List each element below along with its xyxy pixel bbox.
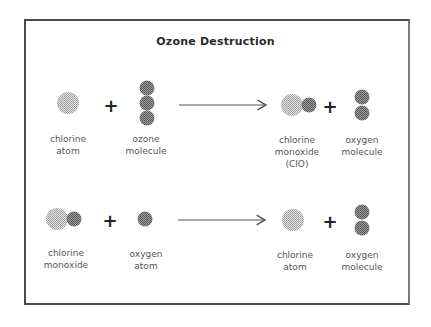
plus-sign: + xyxy=(103,98,119,114)
label-chlorine-atom: chlorine atom xyxy=(33,133,103,157)
chlorine-monoxide-icon xyxy=(281,94,317,116)
label-oxygen-molecule: oxygen molecule xyxy=(327,134,397,158)
chlorine-atom-icon xyxy=(57,92,79,114)
label-chlorine-monoxide-clo: chlorine monoxide (ClO) xyxy=(262,134,332,170)
oxygen-atom-icon xyxy=(138,212,153,227)
reaction-artwork xyxy=(0,0,431,327)
plus-sign: + xyxy=(102,213,118,229)
chlorine-atom-icon xyxy=(282,209,304,231)
oxygen-molecule-icon xyxy=(355,90,370,121)
label-chlorine-monoxide: chlorine monoxide xyxy=(31,247,101,271)
reaction-2 xyxy=(46,205,370,236)
label-oxygen-molecule: oxygen molecule xyxy=(327,249,397,273)
label-oxygen-atom: oxygen atom xyxy=(111,248,181,272)
ozone-molecule-icon xyxy=(140,81,155,126)
oxygen-molecule-icon xyxy=(355,205,370,236)
plus-sign: + xyxy=(322,99,338,115)
plus-sign: + xyxy=(322,214,338,230)
label-chlorine-atom: chlorine atom xyxy=(260,249,330,273)
chlorine-monoxide-icon xyxy=(46,208,82,230)
label-ozone-molecule: ozone molecule xyxy=(111,133,181,157)
